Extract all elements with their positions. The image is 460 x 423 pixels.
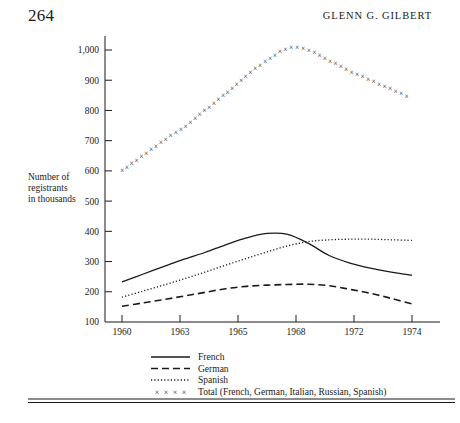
legend-label-spanish: Spanish [198,375,228,385]
legend-swatch-total: × [164,388,169,397]
axis-lines [105,36,440,322]
y-tick-label: 200 [85,287,100,297]
y-axis-title-line: registrants [28,183,68,193]
y-tick-label: 700 [85,136,100,146]
total-marker: × [263,57,267,66]
total-marker: × [289,43,293,52]
series-line-french [122,233,412,282]
total-marker: × [366,75,370,84]
total-marker: × [159,138,163,147]
total-marker: × [344,65,348,74]
y-tick-label: 100 [85,317,100,327]
figure-line-chart: 1002003004005006007008009001,000 1960196… [0,0,460,423]
total-marker: × [382,82,386,91]
y-tick-label: 500 [85,197,100,207]
legend-label-german: German [198,364,229,374]
total-marker: × [360,72,364,81]
total-marker: × [207,103,211,112]
total-marker: × [248,68,252,77]
total-marker: × [273,51,277,60]
x-tick-label: 1963 [171,327,190,337]
total-marker: × [169,131,173,140]
y-tick-label: 300 [85,257,100,267]
y-axis-title-line: in thousands [28,194,76,204]
y-axis-title-line: Number of [28,172,70,182]
total-marker: × [377,80,381,89]
total-marker: × [202,106,206,115]
y-tick-label: 400 [85,227,100,237]
total-marker: × [258,61,262,70]
y-tick-label: 800 [85,106,100,116]
total-marker: × [149,145,153,154]
total-marker: × [139,152,143,161]
total-marker: × [216,95,220,104]
legend-swatch-total: × [182,388,187,397]
total-marker: × [278,47,282,56]
total-marker: × [174,128,178,137]
total-marker: × [307,46,311,55]
y-axis-title: Number ofregistrantsin thousands [28,172,76,204]
total-marker: × [393,87,397,96]
series-plot-area: ××××××××××××××××××××××××××××××××××××××××… [120,43,412,306]
total-marker: × [193,114,197,123]
chart-svg: 1002003004005006007008009001,000 1960196… [0,0,460,423]
y-tick-label: 900 [85,76,100,86]
total-marker: × [388,84,392,93]
y-tick-label: 1,000 [78,45,100,55]
total-marker: × [328,57,332,66]
legend-label-total: Total (French, German, Italian, Russian,… [198,387,387,398]
legend-swatch-total: × [155,388,160,397]
series-line-german [122,284,412,306]
total-marker: × [179,125,183,134]
x-tick-label: 1968 [287,327,306,337]
x-tick-label: 1965 [229,327,248,337]
total-marker: × [268,54,272,63]
total-marker: × [188,118,192,127]
y-axis-ticks: 1002003004005006007008009001,000 [78,45,112,327]
x-tick-label: 1972 [345,327,364,337]
total-marker: × [404,92,408,101]
decorative-rules [28,399,455,403]
total-marker: × [125,163,129,172]
x-tick-label: 1974 [403,327,422,337]
total-marker: × [371,77,375,86]
total-marker: × [355,70,359,79]
total-marker: × [253,64,257,73]
total-marker: × [339,62,343,71]
total-marker: × [134,156,138,165]
total-marker: × [130,159,134,168]
total-marker: × [120,166,124,175]
total-marker: × [301,44,305,53]
total-marker: × [144,149,148,158]
total-marker: × [312,48,316,57]
total-marker: × [244,72,248,81]
series-total-markers: ××××××××××××××××××××××××××××××××××××××××… [120,43,409,175]
total-marker: × [283,45,287,54]
total-marker: × [349,68,353,77]
legend-label-french: French [198,352,225,362]
y-tick-label: 600 [85,166,100,176]
total-marker: × [323,54,327,63]
legend-swatch-total: × [173,388,178,397]
x-axis-ticks: 196019631965196819721974 [113,315,422,337]
total-marker: × [184,122,188,131]
total-marker: × [198,110,202,119]
total-marker: × [295,43,299,52]
total-marker: × [399,89,403,98]
total-marker: × [164,135,168,144]
x-tick-label: 1960 [113,327,132,337]
total-marker: × [318,51,322,60]
total-marker: × [154,142,158,151]
total-marker: × [212,99,216,108]
chart-legend: FrenchGermanSpanish××××Total (French, Ge… [151,352,387,398]
total-marker: × [333,59,337,68]
